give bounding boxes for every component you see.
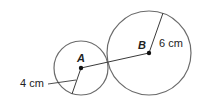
leader-line-4cm bbox=[48, 80, 76, 84]
label-radius-b: 6 cm bbox=[159, 37, 183, 49]
label-a: A bbox=[76, 52, 85, 64]
two-tangent-circles-diagram: A B 6 cm 4 cm bbox=[0, 0, 200, 101]
center-point-a bbox=[79, 66, 83, 70]
radius-a bbox=[72, 68, 81, 94]
segment-ab bbox=[81, 53, 149, 68]
center-point-b bbox=[147, 51, 151, 55]
label-radius-a: 4 cm bbox=[20, 77, 44, 89]
label-b: B bbox=[138, 39, 146, 51]
